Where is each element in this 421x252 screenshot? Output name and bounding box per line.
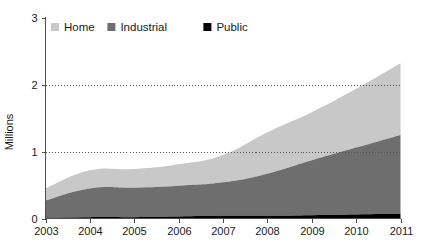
- x-tick-label: 2007: [211, 225, 235, 237]
- x-tick-label: 2006: [167, 225, 191, 237]
- legend-swatch: [107, 23, 115, 31]
- y-tick-label: 3: [31, 12, 37, 24]
- legend-swatch: [51, 23, 59, 31]
- y-tick-label: 0: [31, 213, 37, 225]
- chart-canvas: 0123 20032004200520062007200820092010201…: [0, 0, 421, 252]
- y-tick-label: 1: [31, 146, 37, 158]
- y-tick-label: 2: [31, 79, 37, 91]
- x-tick-label: 2011: [390, 225, 414, 237]
- x-tick-label: 2009: [300, 225, 324, 237]
- y-axis-title: Millions: [3, 113, 15, 150]
- chart-legend: HomeIndustrialPublic: [51, 21, 248, 33]
- legend-label: Public: [216, 21, 248, 33]
- legend-swatch: [203, 23, 211, 31]
- x-tick-label: 2005: [122, 225, 146, 237]
- x-axis-tick-labels: 200320042005200620072008200920102011: [34, 225, 413, 237]
- legend-label: Industrial: [120, 21, 167, 33]
- x-tick-label: 2004: [78, 225, 102, 237]
- legend-label: Home: [64, 21, 95, 33]
- stacked-area-chart: 0123 20032004200520062007200820092010201…: [0, 0, 421, 252]
- x-tick-label: 2010: [344, 225, 368, 237]
- x-tick-label: 2003: [34, 225, 58, 237]
- x-tick-label: 2008: [255, 225, 279, 237]
